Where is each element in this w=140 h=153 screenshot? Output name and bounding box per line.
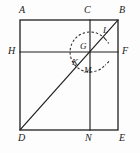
- segment-DB: [20, 20, 118, 130]
- label-N: N: [85, 133, 92, 143]
- figure-canvas: [0, 0, 140, 153]
- label-L: L: [103, 26, 108, 35]
- label-F: F: [122, 46, 128, 56]
- label-K: K: [72, 58, 78, 67]
- dashed-arc-gap-upper-right: [105, 39, 108, 44]
- label-E: E: [119, 133, 125, 143]
- label-B: B: [119, 5, 125, 15]
- label-G: G: [80, 42, 87, 51]
- label-A: A: [19, 5, 25, 15]
- dashed-arc-gap-lower-right: [105, 61, 109, 65]
- label-M: M: [84, 66, 92, 75]
- label-D: D: [18, 133, 25, 143]
- geometry-diagram: A B C D E N H F G K L M: [0, 0, 140, 153]
- label-C: C: [84, 5, 91, 15]
- label-H: H: [8, 46, 15, 56]
